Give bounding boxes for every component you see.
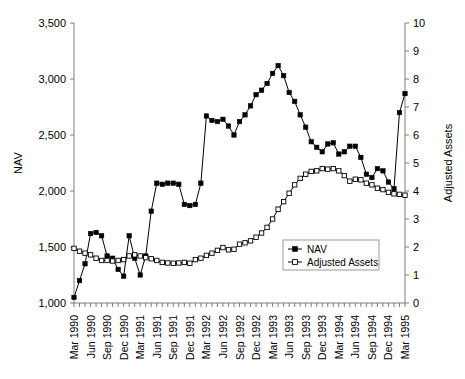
data-point-marker: [171, 181, 175, 185]
data-point-marker: [188, 203, 192, 207]
right-axis-tick-label: 5: [413, 157, 419, 169]
legend-marker: [293, 247, 298, 252]
data-point-marker: [237, 119, 241, 123]
data-point-marker: [281, 199, 285, 203]
data-point-marker: [276, 207, 280, 211]
data-point-marker: [403, 193, 407, 197]
data-point-marker: [199, 181, 203, 185]
data-point-marker: [72, 295, 76, 299]
data-point-marker: [243, 113, 247, 117]
data-point-marker: [353, 177, 357, 181]
right-axis-tick-label: 9: [413, 45, 419, 57]
data-point-marker: [155, 258, 159, 262]
data-point-marker: [188, 261, 192, 265]
data-point-marker: [121, 257, 125, 261]
x-axis-tick-label: Sep 1991: [167, 315, 179, 360]
data-point-marker: [182, 202, 186, 206]
right-axis-title: Adjusted Assets: [442, 123, 454, 202]
x-axis-tick-label: Mar 1991: [134, 315, 146, 360]
data-point-marker: [392, 192, 396, 196]
x-axis-tick-label: Sep 1990: [101, 315, 113, 360]
data-point-marker: [138, 254, 142, 258]
data-point-marker: [270, 217, 274, 221]
right-axis-tick-label: 0: [413, 297, 419, 309]
data-point-marker: [292, 183, 296, 187]
x-axis-tick-label: Dec 1991: [184, 315, 196, 360]
data-point-marker: [381, 187, 385, 191]
x-axis-tick-label: Dec 1994: [382, 315, 394, 360]
data-point-marker: [254, 92, 258, 96]
left-axis-tick-label: 2,000: [38, 185, 66, 197]
legend-label: Adjusted Assets: [307, 257, 378, 268]
data-point-marker: [193, 257, 197, 261]
data-point-marker: [149, 209, 153, 213]
data-point-marker: [298, 176, 302, 180]
data-point-marker: [166, 181, 170, 185]
data-point-marker: [309, 169, 313, 173]
data-point-marker: [105, 258, 109, 262]
data-point-marker: [99, 258, 103, 262]
data-point-marker: [210, 118, 214, 122]
data-point-marker: [348, 144, 352, 148]
x-axis-tick-label: Mar 1994: [333, 315, 345, 360]
data-point-marker: [270, 71, 274, 75]
data-point-marker: [199, 256, 203, 260]
data-point-marker: [287, 191, 291, 195]
x-axis-tick-label: Jun 1991: [151, 315, 163, 358]
data-point-marker: [386, 180, 390, 184]
data-point-marker: [326, 167, 330, 171]
data-point-marker: [320, 166, 324, 170]
data-point-marker: [259, 88, 263, 92]
data-point-marker: [281, 73, 285, 77]
x-axis-tick-label: Jun 1992: [217, 315, 229, 358]
data-point-marker: [265, 225, 269, 229]
data-point-marker: [204, 253, 208, 257]
data-point-marker: [83, 262, 87, 266]
data-point-marker: [403, 91, 407, 95]
right-axis-tick-label: 7: [413, 101, 419, 113]
x-axis-tick-label: Sep 1994: [366, 315, 378, 360]
data-point-marker: [226, 124, 230, 128]
x-axis-tick-label: Sep 1992: [234, 315, 246, 360]
data-point-marker: [359, 155, 363, 159]
data-point-marker: [94, 256, 98, 260]
x-axis-tick-label: Mar 1990: [68, 315, 80, 360]
x-axis-tick-label: Jun 1993: [283, 315, 295, 358]
data-point-marker: [127, 234, 131, 238]
data-point-marker: [177, 182, 181, 186]
data-point-marker: [160, 182, 164, 186]
data-point-marker: [72, 246, 76, 250]
chart-figure: 3,5003,0002,5002,0001,5001,0001098765432…: [0, 0, 465, 379]
data-point-marker: [315, 145, 319, 149]
data-point-marker: [370, 175, 374, 179]
x-axis-tick-label: Dec 1993: [316, 315, 328, 360]
data-point-marker: [77, 249, 81, 253]
data-point-marker: [116, 258, 120, 262]
data-point-marker: [210, 251, 214, 255]
x-axis-tick-label: Jun 1994: [349, 315, 361, 358]
data-point-marker: [254, 235, 258, 239]
data-point-marker: [166, 261, 170, 265]
x-axis-tick-label: Mar 1993: [267, 315, 279, 360]
data-point-marker: [77, 278, 81, 282]
data-point-marker: [397, 192, 401, 196]
data-point-marker: [353, 144, 357, 148]
data-point-marker: [88, 253, 92, 257]
data-point-marker: [193, 202, 197, 206]
data-point-marker: [127, 254, 131, 258]
left-axis-tick-label: 1,000: [38, 297, 66, 309]
data-point-marker: [121, 274, 125, 278]
data-point-marker: [171, 261, 175, 265]
chart-canvas: 3,5003,0002,5002,0001,5001,0001098765432…: [0, 0, 465, 379]
data-point-marker: [304, 172, 308, 176]
right-axis-tick-label: 4: [413, 185, 419, 197]
data-point-marker: [298, 113, 302, 117]
data-point-marker: [337, 152, 341, 156]
legend-marker: [293, 260, 298, 265]
left-axis-title: NAV: [12, 151, 24, 173]
data-point-marker: [110, 259, 114, 263]
data-point-marker: [315, 169, 319, 173]
left-axis-tick-label: 3,500: [38, 17, 66, 29]
data-point-marker: [88, 231, 92, 235]
data-point-marker: [221, 245, 225, 249]
